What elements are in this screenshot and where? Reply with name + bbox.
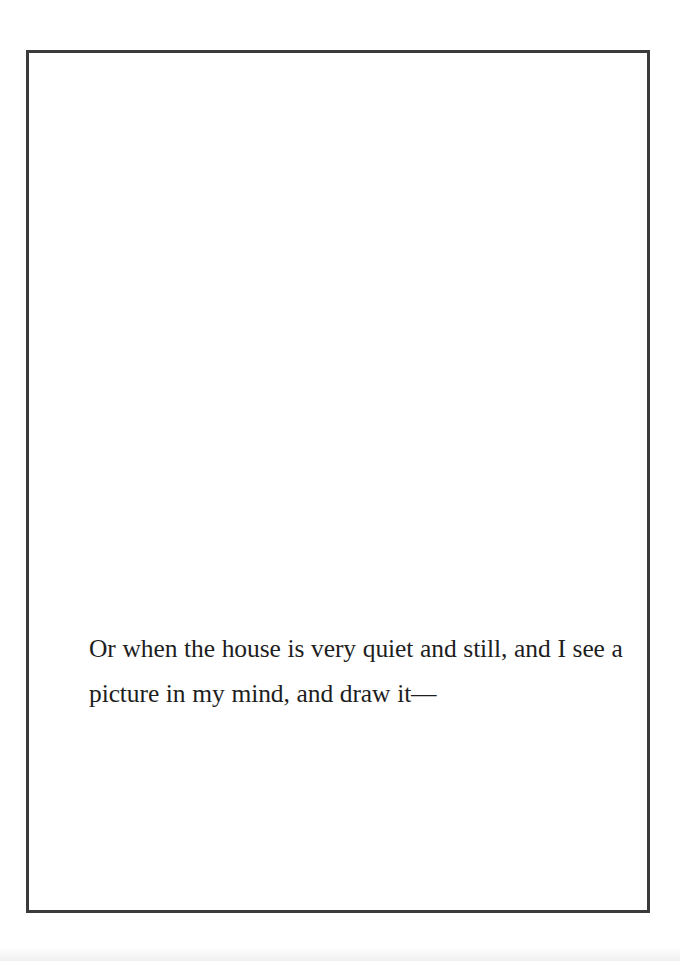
passage-line-2: picture in my mind, and draw it— — [89, 671, 609, 716]
bottom-edge-shadow — [0, 947, 680, 961]
story-text-passage: Or when the house is very quiet and stil… — [89, 626, 609, 716]
page-frame — [26, 50, 650, 913]
passage-line-1: Or when the house is very quiet and stil… — [89, 626, 609, 671]
